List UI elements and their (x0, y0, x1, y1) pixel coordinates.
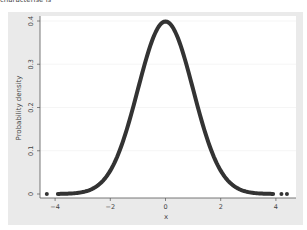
y-axis-title: Probability density (15, 76, 23, 141)
y-tick-label: 0.1 (27, 146, 35, 156)
x-tick-label: −4 (50, 203, 60, 211)
x-tick-label: 2 (219, 203, 223, 211)
x-tick-label: 0 (163, 203, 167, 211)
data-point (45, 192, 49, 196)
y-tick-label: 0 (27, 192, 35, 196)
x-tick-label: −2 (106, 203, 116, 211)
density-chart: 00.10.20.30.4 −4−2024 x Probability dens… (0, 0, 307, 230)
x-axis-ticks: −4−2024 (50, 198, 278, 211)
y-axis-ticks: 00.10.20.30.4 (27, 16, 40, 196)
x-axis-title: x (164, 213, 168, 221)
x-tick-label: 4 (274, 203, 278, 211)
y-tick-label: 0.2 (27, 102, 35, 112)
y-tick-label: 0.3 (27, 59, 35, 69)
plot-area (40, 16, 296, 198)
data-point (285, 192, 289, 196)
data-point (279, 192, 283, 196)
y-tick-label: 0.4 (27, 16, 35, 26)
